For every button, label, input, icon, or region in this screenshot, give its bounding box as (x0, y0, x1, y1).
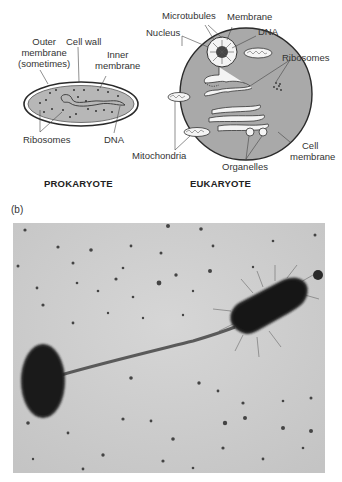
label-organelles: Organelles (222, 161, 268, 172)
prokaryote-title: PROKARYOTE (44, 178, 113, 189)
label-cell-membrane: Cell membrane (290, 140, 335, 162)
label-outer-membrane: Outer membrane (sometimes) (18, 36, 70, 69)
label-line: Outer (18, 36, 70, 47)
label-nucleus: Nucleus (146, 27, 180, 38)
label-inner-membrane: Inner membrane (95, 49, 140, 71)
label-line: Inner (95, 49, 140, 60)
label-line: Cell (290, 140, 335, 151)
eukaryote-title: EUKARYOTE (190, 178, 251, 189)
label-line: (sometimes) (18, 58, 70, 69)
label-line: membrane (290, 151, 335, 162)
label-dna-prokaryote: DNA (104, 134, 124, 145)
micrograph (13, 223, 325, 473)
label-membrane: Membrane (227, 11, 272, 22)
label-ribosomes-eukaryote: Ribosomes (282, 52, 330, 63)
micrograph-image (13, 223, 325, 473)
label-microtubules: Microtubules (162, 10, 216, 21)
label-line: membrane (18, 47, 70, 58)
label-cell-wall: Cell wall (66, 36, 101, 47)
label-ribosomes-prokaryote: Ribosomes (23, 134, 71, 145)
part-b-label: (b) (11, 204, 23, 215)
label-dna-eukaryote: DNA (258, 26, 278, 37)
label-mitochondria: Mitochondria (132, 150, 186, 161)
label-line: membrane (95, 60, 140, 71)
